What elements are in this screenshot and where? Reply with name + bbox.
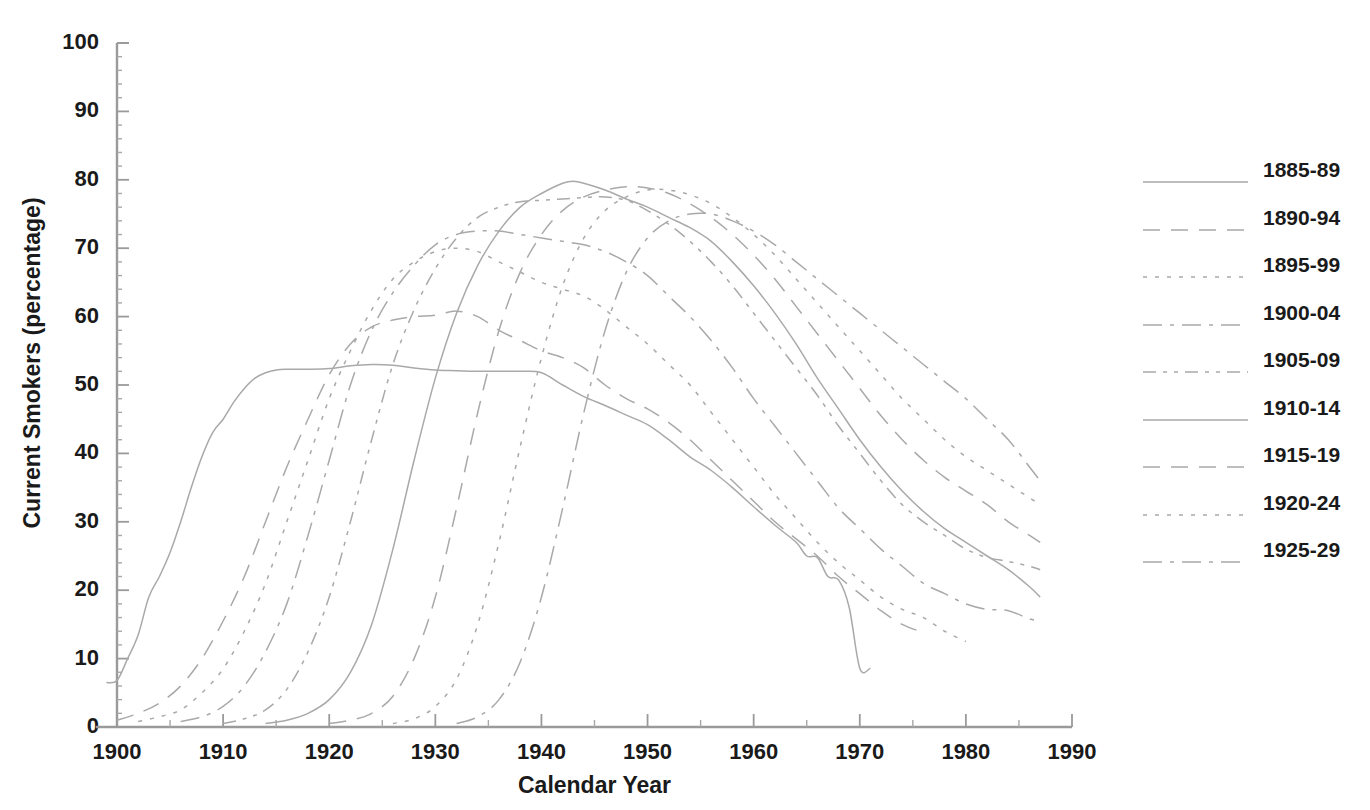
legend-label: 1915-19 — [1263, 443, 1340, 467]
legend-line-swatch — [1143, 550, 1248, 552]
legend-line-swatch — [1143, 218, 1248, 220]
legend-line-swatch — [1143, 360, 1248, 362]
series-line-1890-94 — [117, 311, 923, 720]
legend-line-swatch — [1143, 503, 1248, 505]
legend-item[interactable]: 1920-24 — [1143, 483, 1363, 531]
legend-item[interactable]: 1905-09 — [1143, 340, 1363, 388]
legend-line-swatch — [1143, 455, 1248, 457]
series-line-1895-99 — [138, 248, 966, 721]
legend-item[interactable]: 1895-99 — [1143, 245, 1363, 293]
legend-item[interactable]: 1885-89 — [1143, 150, 1363, 198]
series-line-1925-29 — [457, 213, 1041, 723]
legend-label: 1895-99 — [1263, 253, 1340, 277]
series-line-1920-24 — [393, 189, 1040, 723]
legend-label: 1905-09 — [1263, 348, 1340, 372]
legend-label: 1910-14 — [1263, 396, 1340, 420]
series-line-1910-14 — [266, 181, 1041, 723]
series-line-1900-04 — [181, 231, 1041, 722]
legend-item[interactable]: 1900-04 — [1143, 293, 1363, 341]
legend-label: 1900-04 — [1263, 301, 1340, 325]
legend-item[interactable]: 1915-19 — [1143, 435, 1363, 483]
series-line-1885-89 — [106, 364, 870, 682]
legend-label: 1920-24 — [1263, 491, 1340, 515]
series-line-1905-09 — [223, 197, 1040, 724]
legend-label: 1885-89 — [1263, 158, 1340, 182]
legend-label: 1890-94 — [1263, 206, 1340, 230]
legend: 1885-891890-941895-991900-041905-091910-… — [1143, 150, 1363, 578]
legend-line-swatch — [1143, 170, 1248, 172]
chart-figure: Current Smokers (percentage) Calendar Ye… — [0, 0, 1370, 810]
legend-item[interactable]: 1890-94 — [1143, 198, 1363, 246]
legend-label: 1925-29 — [1263, 538, 1340, 562]
legend-item[interactable]: 1925-29 — [1143, 530, 1363, 578]
legend-line-swatch — [1143, 313, 1248, 315]
legend-item[interactable]: 1910-14 — [1143, 388, 1363, 436]
legend-line-swatch — [1143, 265, 1248, 267]
legend-line-swatch — [1143, 408, 1248, 410]
